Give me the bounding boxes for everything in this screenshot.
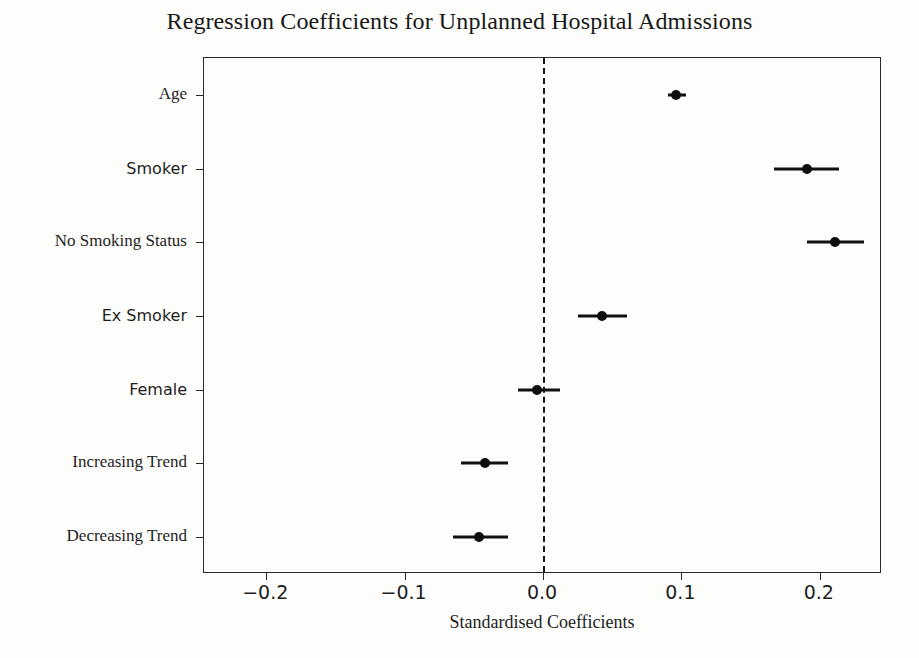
y-axis-tick <box>196 95 204 96</box>
chart-page: Regression Coefficients for Unplanned Ho… <box>0 0 919 658</box>
point-estimate-marker <box>532 385 542 395</box>
point-estimate-marker <box>671 90 681 100</box>
x-axis-tick-label: −0.1 <box>381 581 427 603</box>
y-axis-tick <box>196 537 204 538</box>
y-axis-tick <box>196 390 204 391</box>
point-estimate-marker <box>802 164 812 174</box>
x-axis-tick <box>681 572 682 580</box>
x-axis-tick-label: 0.2 <box>804 581 834 603</box>
y-axis-category-label: Decreasing Trend <box>67 526 187 546</box>
point-estimate-marker <box>597 311 607 321</box>
x-axis-tick <box>543 572 544 580</box>
point-estimate-marker <box>830 237 840 247</box>
y-axis-category-label: Age <box>159 84 187 104</box>
x-axis-tick-label: 0.1 <box>665 581 695 603</box>
y-axis-tick <box>196 242 204 243</box>
x-axis-tick-label: 0.0 <box>527 581 557 603</box>
y-axis-tick <box>196 169 204 170</box>
y-axis-category-label: Increasing Trend <box>72 452 187 472</box>
y-axis-category-label: Female <box>129 379 187 398</box>
x-axis-tick <box>266 572 267 580</box>
x-axis-tick <box>405 572 406 580</box>
point-estimate-marker <box>480 458 490 468</box>
page-title: Regression Coefficients for Unplanned Ho… <box>0 8 919 35</box>
point-estimate-marker <box>474 532 484 542</box>
plot-area <box>203 57 881 573</box>
y-axis-category-label: No Smoking Status <box>55 231 187 251</box>
y-axis-tick <box>196 463 204 464</box>
y-axis-category-label: Smoker <box>126 158 187 177</box>
x-axis-tick <box>820 572 821 580</box>
x-axis-title: Standardised Coefficients <box>203 612 881 633</box>
y-axis-labels: AgeSmokerNo Smoking StatusEx SmokerFemal… <box>0 57 195 573</box>
zero-reference-line <box>543 58 545 572</box>
y-axis-tick <box>196 316 204 317</box>
x-axis-tick-labels: −0.2−0.10.00.10.2 <box>203 581 881 611</box>
x-axis-tick-label: −0.2 <box>242 581 288 603</box>
y-axis-category-label: Ex Smoker <box>102 306 187 325</box>
